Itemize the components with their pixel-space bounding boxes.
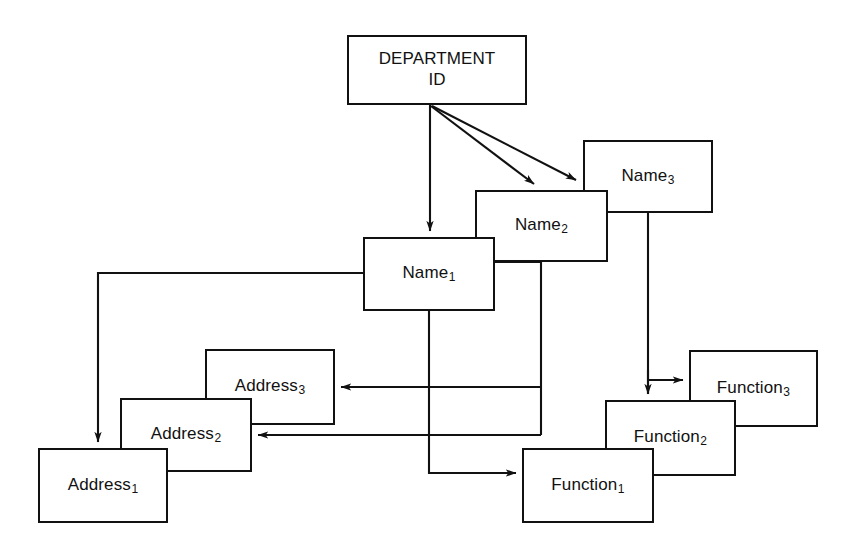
node-department-id[interactable]: DEPARTMENT ID [347,35,527,105]
node-department-id-label: DEPARTMENT ID [379,49,496,90]
entity-decomposition-diagram: Address3 Address2 Address1 Function3 Fun… [0,0,850,555]
node-address-3-label: Address3 [235,376,305,398]
subscript: 1 [617,482,624,496]
subscript: 3 [298,383,305,397]
node-name-1[interactable]: Name1 [363,237,495,311]
subscript: 2 [214,431,221,445]
subscript: 3 [783,385,790,399]
node-function-2-label: Function2 [634,427,707,449]
subscript: 1 [131,482,138,496]
node-address-1-label: Address1 [68,475,138,497]
node-name-2-label: Name2 [515,215,568,237]
edge-dept-to-name-3 [432,106,576,180]
edge-name-1-to-function-1 [429,311,516,473]
subscript: 2 [700,434,707,448]
subscript: 2 [561,222,568,236]
node-function-1[interactable]: Function1 [522,448,654,523]
subscript: 1 [448,270,455,284]
node-address-2-label: Address2 [151,424,221,446]
node-name-1-label: Name1 [402,263,455,285]
node-function-3-label: Function3 [717,378,790,400]
node-address-1[interactable]: Address1 [38,448,168,523]
node-function-1-label: Function1 [551,475,624,497]
subscript: 3 [667,173,674,187]
node-name-3-label: Name3 [621,166,674,188]
edge-dept-to-name-2 [431,106,534,184]
